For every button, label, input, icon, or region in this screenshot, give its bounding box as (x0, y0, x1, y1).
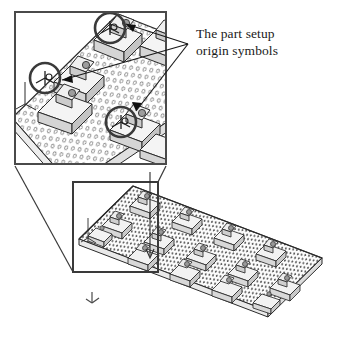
leader-lines (62, 24, 188, 111)
annotation-label: The part setup origin symbols (196, 26, 336, 59)
figure-container: The part setup origin symbols (0, 0, 343, 358)
leader-arrowheads (62, 24, 142, 111)
figure-caption (0, 345, 343, 358)
